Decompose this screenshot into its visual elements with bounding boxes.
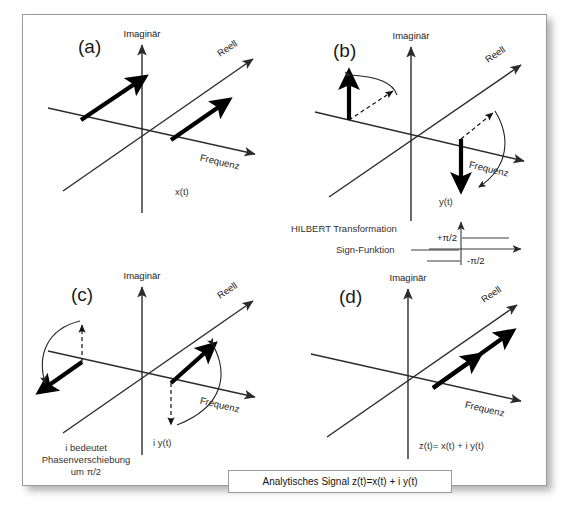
vector-negative-frequency-c (45, 362, 82, 388)
axis-label-imaginary-b: Imaginär (393, 30, 430, 41)
axis-label-frequency-a: Frequenz (199, 152, 241, 172)
axis-frequency-a (48, 108, 255, 154)
axis-label-imaginary-a: Imaginär (124, 28, 161, 39)
signal-label-a: x(t) (175, 186, 189, 197)
axis-label-frequency-d: Frequenz (464, 399, 506, 419)
axis-real-d (327, 305, 517, 437)
caption-box: Analytisches Signal z(t)=x(t) + i y(t) (228, 470, 452, 493)
axis-frequency-b (315, 112, 524, 161)
vector-negative-frequency-a (81, 81, 139, 120)
signal-label-d: z(t)= x(t) + i y(t) (419, 440, 484, 451)
panel-label-b: (b) (333, 40, 356, 61)
annotation-hilbert-b: HILBERT Transformation (291, 223, 397, 234)
axis-real-a (63, 59, 253, 191)
axis-frequency-c (48, 351, 255, 397)
note-line-3-c: um π/2 (71, 466, 101, 477)
panel-label-d: (d) (339, 286, 362, 307)
axis-real-b (329, 65, 521, 197)
axis-label-real-c: Reell (215, 279, 239, 300)
note-line-1-c: i bedeutet (65, 442, 107, 453)
vector-original-dashed-left-b (349, 91, 393, 120)
axis-label-real-b: Reell (483, 43, 507, 64)
signal-label-b: y(t) (439, 196, 453, 207)
axis-label-imaginary-c: Imaginär (124, 270, 161, 281)
axis-frequency-d (311, 354, 521, 401)
axis-label-frequency-b: Frequenz (468, 159, 510, 179)
panel-a: Imaginär Reell Frequenz (a) x(t) (23, 15, 285, 253)
rotation-arc-left-b (351, 75, 397, 95)
vector-original-dashed-right-b (461, 113, 493, 139)
panel-label-c: (c) (71, 284, 93, 305)
annotation-sign-function-b: Sign-Funktion (336, 244, 395, 255)
panel-label-a: (a) (78, 36, 101, 57)
figure-root: Imaginär Reell Frequenz (a) x(t) (0, 0, 584, 515)
panel-c: Imaginär Reell Frequenz (c) i y(t) i bed… (23, 259, 285, 487)
axis-real-c (63, 301, 253, 433)
vector-analytic-signal-inner-arrowhead-d (433, 359, 474, 388)
axis-label-real-d: Reell (479, 283, 503, 304)
sign-function-upper-value-b: +π/2 (437, 232, 457, 243)
axis-label-frequency-c: Frequenz (199, 395, 241, 415)
axis-label-real-a: Reell (215, 37, 239, 58)
rotation-arc-left-c (42, 321, 80, 383)
figure-frame: Imaginär Reell Frequenz (a) x(t) (22, 14, 547, 486)
vector-positive-frequency-a (171, 104, 223, 140)
note-line-2-c: Phasenverschiebung (42, 454, 131, 465)
caption-text: Analytisches Signal z(t)=x(t) + i y(t) (262, 476, 417, 487)
panel-d: Imaginär Reell Frequenz (d) z(t)= x(t) +… (281, 259, 547, 487)
axis-label-imaginary-d: Imaginär (390, 272, 427, 283)
panel-b: Imaginär Reell Frequenz (b) y(t) HILBERT… (281, 15, 547, 265)
signal-label-c: i y(t) (153, 437, 171, 448)
